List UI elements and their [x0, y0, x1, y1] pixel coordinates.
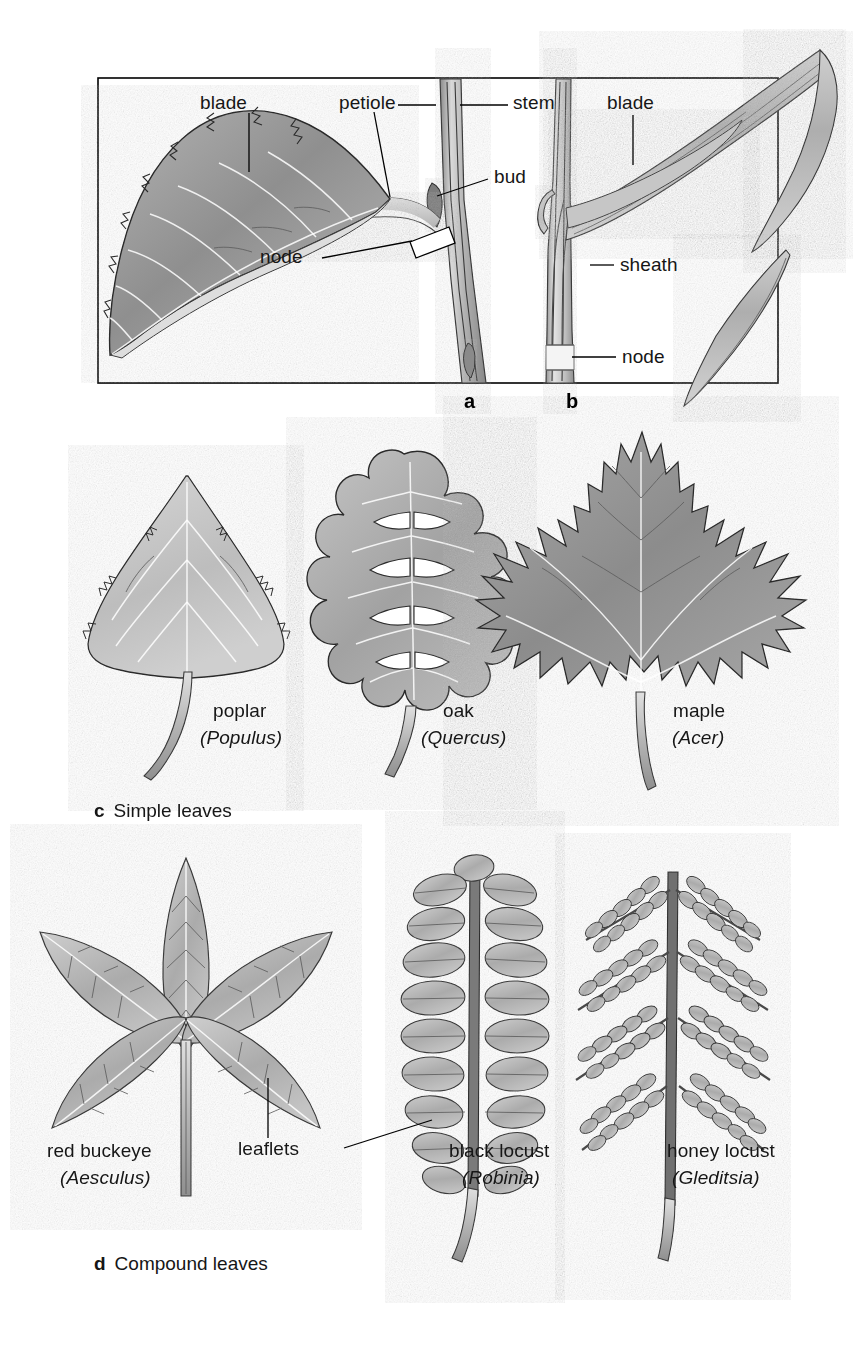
leaf-name-oak: oak [443, 700, 474, 722]
grass-node-shape [546, 345, 574, 370]
leaf-latin-honey-locust: (Gleditsia) [672, 1167, 760, 1189]
caption-letter-c: c [94, 800, 105, 821]
label-stem: stem [513, 92, 555, 114]
leaf-latin-maple: (Acer) [672, 727, 724, 749]
panel-b-illustration [538, 50, 838, 406]
leaf-name-honey-locust: honey locust [667, 1140, 775, 1162]
caption-letter-d: d [94, 1253, 106, 1274]
caption-compound-leaves: dCompound leaves [94, 1253, 268, 1275]
panel-letter-b: b [566, 390, 578, 413]
leaf-latin-oak: (Quercus) [421, 727, 506, 749]
caption-text-simple: Simple leaves [114, 800, 232, 821]
leader-node-a [322, 241, 412, 258]
leaf-structure-figure: blade petiole stem bud node blade sheath… [0, 0, 857, 1350]
panel-a-illustration [104, 79, 508, 383]
leaf-name-black-locust: black locust [449, 1140, 549, 1162]
label-blade-a: blade [200, 92, 247, 114]
maple-leaf [476, 432, 806, 790]
label-petiole: petiole [339, 92, 396, 114]
leaf-name-poplar: poplar [213, 700, 266, 722]
label-node-b: node [622, 346, 665, 368]
label-bud: bud [494, 166, 526, 188]
leaf-latin-black-locust: (Robinia) [462, 1167, 540, 1189]
panel-letter-a: a [464, 390, 475, 413]
label-node-a: node [260, 246, 303, 268]
dicot-leaf-blade [110, 111, 391, 358]
leaf-latin-red-buckeye: (Aesculus) [60, 1167, 151, 1189]
leaf-latin-poplar: (Populus) [200, 727, 282, 749]
leaf-name-maple: maple [673, 700, 725, 722]
label-leaflets: leaflets [238, 1138, 299, 1160]
black-locust-leaf [400, 852, 550, 1262]
label-blade-b: blade [607, 92, 654, 114]
caption-simple-leaves: cSimple leaves [94, 800, 232, 822]
honey-locust-leaf [575, 872, 770, 1261]
leaf-name-red-buckeye: red buckeye [47, 1140, 152, 1162]
caption-text-compound: Compound leaves [115, 1253, 268, 1274]
label-sheath: sheath [620, 254, 678, 276]
